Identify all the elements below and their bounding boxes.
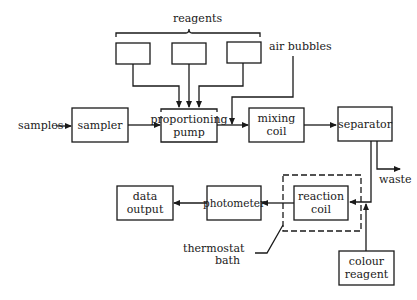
mixing-text-line1: mixing: [258, 112, 296, 125]
mixing-coil-label: mixing coil: [249, 108, 304, 142]
colour-reagent-line2: reagent: [345, 268, 388, 281]
reagent-3-line: [199, 63, 243, 107]
pump-text-line2: pump: [173, 126, 205, 139]
data-output-line1: data: [133, 190, 158, 203]
separator-label: separator: [338, 107, 392, 141]
thermostat-leader-line: [255, 225, 283, 253]
data-output-label: data output: [117, 186, 173, 220]
reagent-box-2: [172, 43, 206, 64]
mixing-text-line2: coil: [267, 125, 287, 138]
reagent-box-1: [116, 43, 150, 64]
colour-reagent-line1: colour: [349, 255, 384, 268]
air-bubbles-label: air bubbles: [269, 41, 332, 53]
colour-reagent-label: colour reagent: [339, 251, 394, 285]
sampler-text: sampler: [78, 119, 123, 132]
reaction-text-line1: reaction: [298, 190, 344, 203]
waste-label: waste: [379, 174, 412, 186]
sampler-label: sampler: [72, 108, 128, 142]
proportioning-pump-label: proportioning pump: [158, 109, 220, 143]
pump-text-line1: proportioning: [150, 113, 227, 126]
reagent-1-line: [133, 64, 179, 107]
data-output-line2: output: [127, 203, 164, 216]
waste-line: [377, 141, 400, 169]
reagents-label: reagents: [173, 13, 222, 25]
samples-label: samples: [18, 120, 63, 132]
reaction-text-line2: coil: [311, 203, 331, 216]
reagent-box-3: [227, 42, 261, 63]
photometer-label: photometer: [205, 186, 263, 220]
photometer-text: photometer: [203, 197, 265, 210]
bath-label: bath: [215, 255, 240, 267]
reagents-brace: [116, 29, 260, 37]
separator-text: separator: [338, 118, 392, 131]
reaction-coil-label: reaction coil: [294, 186, 348, 220]
